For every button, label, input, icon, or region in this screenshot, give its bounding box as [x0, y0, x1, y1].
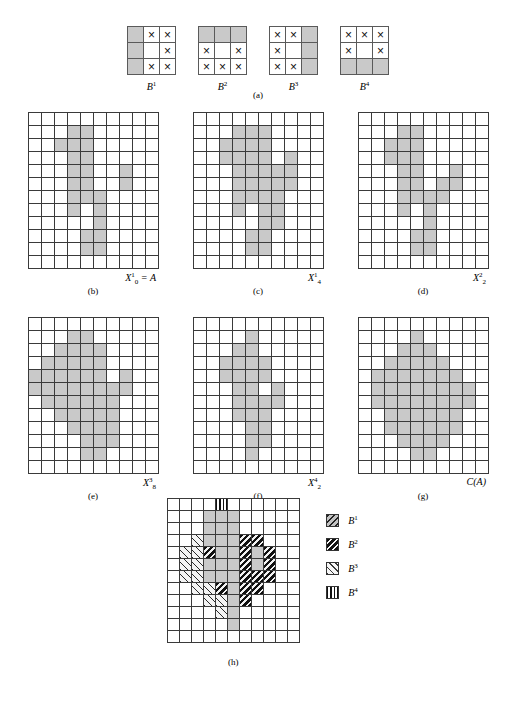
- grid-cell: [246, 409, 259, 422]
- grid-cell: [311, 204, 324, 217]
- panel-h-cell-g: [204, 523, 216, 535]
- grid-cell: [94, 370, 107, 383]
- grid-cell: [42, 191, 55, 204]
- grid-cell: [194, 318, 207, 331]
- grid-cell: [246, 396, 259, 409]
- panel-h-cell-b2: [252, 535, 264, 547]
- grid-cell: [81, 435, 94, 448]
- grid-cell: [68, 126, 81, 139]
- se-cell: ×: [341, 43, 356, 58]
- grid-cell: [107, 204, 120, 217]
- grid-cell: [146, 165, 159, 178]
- grid-cell: [463, 344, 476, 357]
- grid-cell: [42, 357, 55, 370]
- structuring-element-b3: ×××××B3: [269, 26, 318, 92]
- panel-h-cell: [288, 595, 300, 607]
- grid-cell: [146, 435, 159, 448]
- panel-h-cell: [240, 619, 252, 631]
- panel-h-cell: [288, 559, 300, 571]
- grid-cell: [68, 217, 81, 230]
- panel-h-cell: [288, 523, 300, 535]
- grid-cell: [120, 409, 133, 422]
- grid-cell: [450, 165, 463, 178]
- grid-cell: [398, 139, 411, 152]
- grid-cell: [476, 396, 489, 409]
- panel-h: (h): [158, 498, 308, 667]
- grid-cell: [107, 256, 120, 269]
- panel-h-cell-b3: [192, 571, 204, 583]
- grid-cell: [398, 243, 411, 256]
- grid-cell: [272, 396, 285, 409]
- grid-cell: [42, 256, 55, 269]
- grid-cell: [311, 357, 324, 370]
- grid-cell: [476, 461, 489, 474]
- grid-cell: [207, 126, 220, 139]
- grid-cell: [385, 461, 398, 474]
- structuring-element-b4: ×××××B4: [340, 26, 389, 92]
- se-grid-b1: ×××××: [127, 26, 176, 75]
- grid-cell: [311, 139, 324, 152]
- panel-h-cell-g: [216, 523, 228, 535]
- panel-h-cell: [180, 631, 192, 643]
- panel-h-cell: [192, 619, 204, 631]
- panel-h-cell-g: [216, 511, 228, 523]
- panel-h-cell: [288, 499, 300, 511]
- grid-cell: [220, 383, 233, 396]
- grid-cell: [272, 191, 285, 204]
- grid-cell: [272, 139, 285, 152]
- grid-cell: [29, 139, 42, 152]
- panel-h-cell: [204, 607, 216, 619]
- grid-cell: [120, 113, 133, 126]
- grid-cell: [133, 152, 146, 165]
- grid-cell: [233, 178, 246, 191]
- grid-cell: [259, 217, 272, 230]
- grid-cell: [385, 396, 398, 409]
- se-cell: [302, 43, 317, 58]
- grid-cell: [437, 344, 450, 357]
- grid-cell: [220, 230, 233, 243]
- grid-cell: [311, 178, 324, 191]
- grid-cell: [233, 191, 246, 204]
- panel-h-cell: [192, 523, 204, 535]
- grid-cell: [272, 422, 285, 435]
- grid-cell: [285, 383, 298, 396]
- grid-cell: [398, 113, 411, 126]
- grid-cell: [476, 435, 489, 448]
- grid-cell: [81, 243, 94, 256]
- grid-cell: [29, 204, 42, 217]
- grid-cell: [463, 126, 476, 139]
- grid-cell: [372, 152, 385, 165]
- grid-cell: [372, 139, 385, 152]
- grid-cell: [246, 204, 259, 217]
- panel-h-cell-b3: [192, 559, 204, 571]
- grid-cell: [194, 357, 207, 370]
- se-cell: ×: [373, 43, 388, 58]
- grid-cell: [220, 126, 233, 139]
- grid-cell: [81, 461, 94, 474]
- grid-cell: [133, 139, 146, 152]
- grid-cell: [207, 178, 220, 191]
- grid-cell: [272, 113, 285, 126]
- grid-cell: [476, 113, 489, 126]
- grid-cell: [55, 435, 68, 448]
- grid-cell: [146, 204, 159, 217]
- grid-cell: [120, 370, 133, 383]
- se-cell: ×: [199, 43, 214, 58]
- grid-cell: [298, 256, 311, 269]
- panel-g-label: C(A): [356, 476, 490, 490]
- grid-cell: [411, 217, 424, 230]
- grid-cell: [146, 217, 159, 230]
- panel-d-label: X22: [356, 271, 490, 285]
- grid-cell: [285, 331, 298, 344]
- grid-cell: [272, 126, 285, 139]
- panel-h-cell-b2: [264, 547, 276, 559]
- grid-cell: [311, 152, 324, 165]
- grid-cell: [311, 461, 324, 474]
- grid-cell: [29, 448, 42, 461]
- grid-cell: [42, 435, 55, 448]
- grid-cell: [81, 165, 94, 178]
- se-grid-b3: ×××××: [269, 26, 318, 75]
- grid-cell: [94, 217, 107, 230]
- se-cell: ×: [270, 27, 285, 42]
- grid-cell: [207, 191, 220, 204]
